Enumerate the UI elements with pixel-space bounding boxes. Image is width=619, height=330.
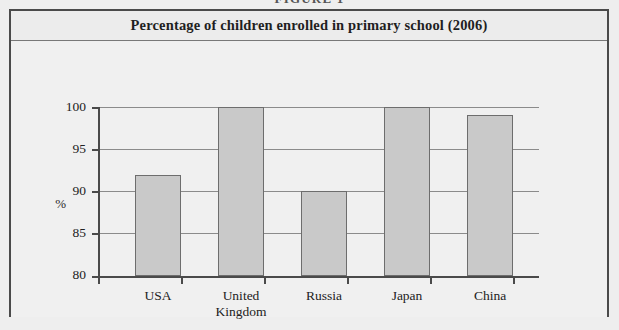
bar-china[interactable]	[467, 115, 513, 276]
gridline-100	[98, 107, 539, 108]
figure-caption: FIGURE 1	[0, 0, 619, 7]
bar-russia[interactable]	[301, 191, 347, 276]
y-tick-label-100: 100	[46, 100, 86, 114]
x-tick-mark-5	[513, 277, 515, 284]
bar-japan[interactable]	[384, 107, 430, 276]
y-tick-label-95: 95	[46, 142, 86, 156]
x-label-russia: Russia	[282, 288, 366, 304]
x-axis-baseline	[98, 276, 539, 278]
y-tick-mark-90	[92, 191, 99, 193]
bar-usa[interactable]	[135, 175, 181, 276]
y-tick-label-80: 80	[46, 268, 86, 282]
x-tick-mark-0	[98, 277, 100, 284]
x-label-united-kingdom: United Kingdom	[199, 288, 283, 320]
y-tick-mark-100	[92, 107, 99, 109]
x-tick-mark-3	[347, 277, 349, 284]
y-tick-label-85: 85	[46, 226, 86, 240]
chart-plot-area: % 100 95 90 85 80 USA	[11, 42, 607, 317]
x-tick-mark-4	[430, 277, 432, 284]
y-axis-unit-label: %	[32, 196, 66, 212]
chart-title-bar: Percentage of children enrolled in prima…	[11, 11, 607, 41]
x-label-japan: Japan	[365, 288, 449, 304]
figure-frame: Percentage of children enrolled in prima…	[9, 9, 609, 317]
x-label-usa: USA	[116, 288, 200, 304]
x-tick-mark-2	[264, 277, 266, 284]
y-tick-mark-85	[92, 233, 99, 235]
chart-title: Percentage of children enrolled in prima…	[131, 17, 488, 34]
bar-united-kingdom[interactable]	[218, 107, 264, 276]
x-label-china: China	[448, 288, 532, 304]
y-tick-mark-95	[92, 149, 99, 151]
x-tick-mark-1	[181, 277, 183, 284]
y-tick-label-90: 90	[46, 184, 86, 198]
